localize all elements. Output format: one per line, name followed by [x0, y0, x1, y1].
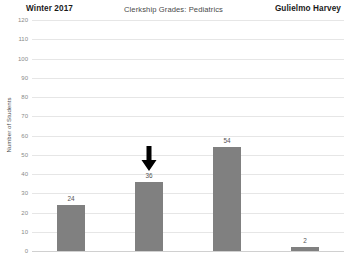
y-axis-tick-label: 90: [21, 75, 28, 81]
gridline: [32, 136, 344, 137]
y-axis-tick-label: 0: [25, 248, 28, 254]
y-axis-tick-label: 110: [18, 36, 28, 42]
plot-region: 01020304050607080901001101202436542: [32, 20, 344, 251]
gridline: [32, 78, 344, 79]
y-axis-tick-label: 30: [21, 190, 28, 196]
bar[interactable]: [135, 182, 163, 251]
y-axis-tick-label: 40: [21, 171, 28, 177]
y-axis-tick-label: 60: [21, 133, 28, 139]
chart-area: Number of Students 010203040506070809010…: [0, 16, 347, 261]
bar-value-label: 2: [303, 238, 307, 244]
gridline: [32, 20, 344, 21]
gridline: [32, 193, 344, 194]
y-axis-tick-label: 50: [21, 152, 28, 158]
bar[interactable]: [57, 205, 85, 251]
y-axis-tick-label: 70: [21, 113, 28, 119]
gridline: [32, 59, 344, 60]
bar[interactable]: [291, 247, 319, 251]
student-name-label: Gulielmo Harvey: [275, 4, 341, 13]
bar-value-label: 24: [67, 196, 74, 202]
arrow-down-icon: [141, 146, 157, 176]
y-axis-tick-label: 80: [21, 94, 28, 100]
y-axis-tick-label: 20: [21, 210, 28, 216]
y-axis-tick-label: 120: [18, 17, 28, 23]
bar[interactable]: [213, 147, 241, 251]
gridline: [32, 97, 344, 98]
gridline: [32, 116, 344, 117]
y-axis-title: Number of Students: [6, 80, 12, 170]
bar-value-label: 54: [223, 138, 230, 144]
gridline: [32, 155, 344, 156]
gridline: [32, 174, 344, 175]
gridline: [32, 251, 344, 252]
chart-page: Winter 2017 Clerkship Grades: Pediatrics…: [0, 0, 347, 261]
y-axis-tick-label: 10: [21, 229, 28, 235]
gridline: [32, 39, 344, 40]
y-axis-tick-label: 100: [18, 56, 28, 62]
